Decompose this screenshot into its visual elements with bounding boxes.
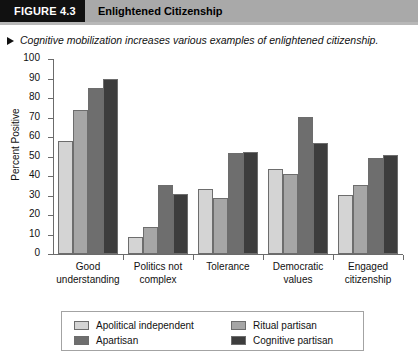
figure-title: Enlightened Citizenship: [85, 0, 223, 22]
bar: [173, 194, 188, 254]
legend-swatch-icon: [74, 336, 89, 345]
y-axis-tick-label: 0: [34, 247, 40, 258]
bar-group: [338, 59, 398, 254]
y-axis-tick-label: 50: [29, 150, 40, 161]
y-axis-tick-label: 10: [29, 228, 40, 239]
y-axis-tick-label: 60: [29, 130, 40, 141]
bar: [73, 110, 88, 254]
legend-item-apartisan: Apartisan: [74, 335, 231, 346]
bar-group: [58, 59, 118, 254]
y-axis-tick-label: 40: [29, 169, 40, 180]
bar: [268, 169, 283, 254]
y-axis-tick: 50: [48, 157, 53, 158]
y-axis-tick-label: 20: [29, 208, 40, 219]
triangle-right-icon: [7, 37, 14, 45]
x-axis-tick: [263, 255, 264, 260]
bar-group: [198, 59, 258, 254]
legend-row: Apolitical independent Ritual partisan: [74, 318, 363, 333]
bar: [283, 174, 298, 254]
y-axis-tick: 40: [48, 176, 53, 177]
bar: [128, 237, 143, 254]
bar: [198, 189, 213, 254]
y-axis-line: [53, 59, 54, 255]
bar: [213, 198, 228, 254]
chart-legend: Apolitical independent Ritual partisan A…: [61, 311, 364, 351]
y-axis-tick: 70: [48, 118, 53, 119]
x-axis-label: Engagedcitizenship: [318, 261, 418, 286]
bar: [88, 88, 103, 254]
x-axis-tick: [333, 255, 334, 260]
y-axis-title: Percent Positive: [10, 100, 21, 190]
bar: [58, 141, 73, 254]
y-axis-tick-label: 30: [29, 189, 40, 200]
y-axis-tick: 60: [48, 137, 53, 138]
x-axis-tick: [123, 255, 124, 260]
legend-label: Ritual partisan: [253, 320, 317, 331]
bar: [228, 153, 243, 254]
legend-item-apolitical-independent: Apolitical independent: [74, 320, 231, 331]
bar-group: [128, 59, 188, 254]
bar: [368, 158, 383, 254]
legend-swatch-icon: [231, 321, 246, 330]
bar: [158, 185, 173, 254]
bar: [338, 195, 353, 254]
y-axis-tick: 90: [48, 79, 53, 80]
bar: [243, 152, 258, 254]
legend-item-cognitive-partisan: Cognitive partisan: [231, 335, 333, 346]
x-axis-line: [53, 254, 403, 255]
y-axis-tick: 30: [48, 196, 53, 197]
y-axis-tick-label: 80: [29, 91, 40, 102]
y-axis-tick: 0: [48, 254, 53, 255]
legend-row: Apartisan Cognitive partisan: [74, 333, 363, 348]
y-axis-tick-label: 100: [23, 52, 40, 63]
bar-chart: Percent Positive 0102030405060708090100 …: [0, 47, 418, 282]
figure-header: FIGURE 4.3 Enlightened Citizenship: [0, 0, 418, 22]
bar: [103, 79, 118, 254]
legend-swatch-icon: [74, 321, 89, 330]
y-axis-tick-label: 70: [29, 111, 40, 122]
bar: [143, 227, 158, 254]
legend-swatch-icon: [231, 336, 246, 345]
legend-item-ritual-partisan: Ritual partisan: [231, 320, 317, 331]
legend-label: Cognitive partisan: [253, 335, 333, 346]
bar: [298, 117, 313, 254]
figure-caption: Cognitive mobilization increases various…: [0, 25, 418, 47]
y-axis-tick: 100: [48, 59, 53, 60]
bar: [353, 185, 368, 254]
legend-label: Apartisan: [96, 335, 138, 346]
legend-label: Apolitical independent: [96, 320, 194, 331]
plot-area: 0102030405060708090100 Goodunderstanding…: [53, 59, 403, 255]
y-axis-tick: 20: [48, 215, 53, 216]
caption-text: Cognitive mobilization increases various…: [20, 34, 378, 47]
y-axis-tick: 80: [48, 98, 53, 99]
bar: [313, 143, 328, 254]
x-axis-tick: [193, 255, 194, 260]
bar: [383, 155, 398, 254]
y-axis-tick: 10: [48, 235, 53, 236]
y-axis-tick-label: 90: [29, 72, 40, 83]
figure-number: FIGURE 4.3: [0, 0, 85, 22]
x-axis-tick: [403, 255, 404, 260]
bar-group: [268, 59, 328, 254]
